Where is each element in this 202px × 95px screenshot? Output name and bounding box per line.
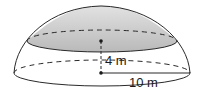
hemisphere-drawing xyxy=(0,0,202,95)
base-front xyxy=(14,73,190,86)
base-center-point xyxy=(99,71,103,75)
base-back-dashed xyxy=(14,60,190,73)
cap-shaded-region xyxy=(27,6,177,53)
radius-label: 10 m xyxy=(129,76,158,89)
cap-center-point xyxy=(99,39,103,43)
hemisphere-diagram: 4 m 10 m xyxy=(0,0,202,95)
height-label: 4 m xyxy=(105,54,127,67)
